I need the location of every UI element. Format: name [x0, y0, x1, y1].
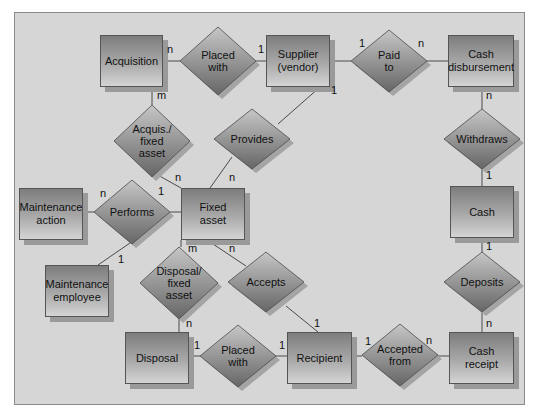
- cardinality-label: 1: [365, 336, 371, 347]
- entity-label: Maintenance employee: [46, 278, 109, 304]
- cardinality-label: m: [157, 90, 166, 101]
- entity-label: Cash receipt: [465, 345, 498, 371]
- cardinality-label: 1: [331, 85, 337, 96]
- cardinality-label: 1: [314, 318, 320, 329]
- connector-line: [98, 243, 130, 265]
- connector-line: [207, 240, 246, 266]
- cardinality-label: n: [229, 243, 235, 254]
- cardinality-label: n: [418, 38, 424, 49]
- entity-maintenance-employee[interactable]: Maintenance employee: [45, 265, 109, 317]
- cardinality-label: n: [426, 335, 432, 346]
- entity-fixed-asset[interactable]: Fixed asset: [181, 188, 245, 240]
- cardinality-label: n: [167, 44, 173, 55]
- entity-label: Disposal: [136, 352, 178, 365]
- relationship-disposal-fixed-asset[interactable]: [140, 247, 218, 319]
- entity-label: Supplier (vendor): [278, 48, 319, 74]
- entity-disposal[interactable]: Disposal: [125, 332, 189, 384]
- cardinality-label: 1: [194, 340, 200, 351]
- cardinality-label: n: [486, 90, 492, 101]
- relationship-deposits[interactable]: [444, 252, 520, 312]
- entity-recipient[interactable]: Recipient: [287, 332, 352, 384]
- entity-label: Recipient: [297, 352, 343, 365]
- entity-label: Fixed asset: [200, 201, 227, 227]
- cardinality-label: 1: [118, 254, 124, 265]
- entity-acquisition[interactable]: Acquisition: [100, 35, 163, 87]
- cardinality-label: 1: [486, 241, 492, 252]
- relationship-withdraws[interactable]: [444, 109, 520, 169]
- entity-maintenance-action[interactable]: Maintenance action: [19, 188, 83, 240]
- entity-cash-receipt[interactable]: Cash receipt: [449, 332, 514, 384]
- cardinality-label: 1: [258, 44, 264, 55]
- entity-supplier[interactable]: Supplier (vendor): [266, 35, 330, 87]
- entity-cash[interactable]: Cash: [450, 186, 514, 238]
- relationship-acquis-fixed-asset[interactable]: [114, 105, 190, 177]
- relationship-placed-with-bottom[interactable]: [200, 325, 276, 387]
- entity-label: Cash disbursement: [448, 48, 514, 74]
- entity-label: Acquisition: [105, 55, 158, 68]
- cardinality-label: 1: [486, 170, 492, 181]
- cardinality-label: n: [175, 172, 181, 183]
- cardinality-label: 1: [158, 186, 164, 197]
- entity-cash-disbursement[interactable]: Cash disbursement: [448, 35, 514, 87]
- cardinality-label: n: [186, 318, 192, 329]
- cardinality-label: m: [188, 243, 197, 254]
- cardinality-label: 1: [279, 340, 285, 351]
- cardinality-label: n: [229, 172, 235, 183]
- cardinality-label: n: [486, 318, 492, 329]
- cardinality-label: 1: [359, 38, 365, 49]
- connector-line: [278, 87, 320, 124]
- cardinality-label: n: [100, 188, 106, 199]
- entity-label: Cash: [469, 206, 495, 219]
- relationship-provides[interactable]: [214, 109, 290, 169]
- relationship-placed-with-top[interactable]: [180, 27, 256, 95]
- entity-label: Maintenance action: [20, 201, 83, 227]
